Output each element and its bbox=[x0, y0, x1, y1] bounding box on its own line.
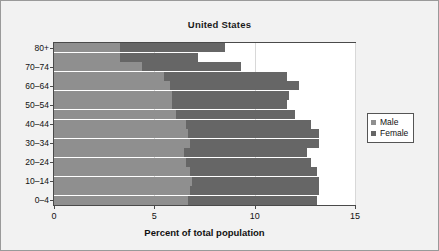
bar-row[interactable] bbox=[54, 43, 355, 52]
bar-segment-male[interactable] bbox=[54, 62, 142, 71]
bar-segment-female[interactable] bbox=[188, 129, 318, 138]
bar-segment-female[interactable] bbox=[190, 167, 316, 176]
bar-row[interactable] bbox=[54, 196, 355, 205]
bar-segment-male[interactable] bbox=[54, 72, 164, 81]
bar-row[interactable] bbox=[54, 81, 355, 90]
bar-segment-male[interactable] bbox=[54, 158, 186, 167]
chart-legend: MaleFemale bbox=[367, 113, 414, 143]
bar-segment-female[interactable] bbox=[164, 72, 286, 81]
x-tick-mark bbox=[54, 205, 55, 209]
bar-segment-female[interactable] bbox=[176, 110, 294, 119]
bar-row[interactable] bbox=[54, 120, 355, 129]
x-tick-label: 0 bbox=[51, 211, 56, 221]
bar-segment-male[interactable] bbox=[54, 177, 192, 186]
x-tick-label: 15 bbox=[350, 211, 360, 221]
bar-segment-female[interactable] bbox=[172, 100, 286, 109]
bar-segment-male[interactable] bbox=[54, 196, 188, 205]
bar-row[interactable] bbox=[54, 177, 355, 186]
bar-row[interactable] bbox=[54, 186, 355, 195]
bar-row[interactable] bbox=[54, 72, 355, 81]
bar-segment-male[interactable] bbox=[54, 81, 170, 90]
y-tick-label: 80+ bbox=[3, 43, 49, 53]
y-tick-label: 70–74 bbox=[3, 62, 49, 72]
bar-row[interactable] bbox=[54, 100, 355, 109]
bar-row[interactable] bbox=[54, 62, 355, 71]
y-tick-label: 0–4 bbox=[3, 195, 49, 205]
x-tick-mark bbox=[255, 205, 256, 209]
bar-segment-female[interactable] bbox=[190, 139, 318, 148]
bar-segment-female[interactable] bbox=[190, 186, 318, 195]
bar-segment-male[interactable] bbox=[54, 120, 186, 129]
bar-row[interactable] bbox=[54, 148, 355, 157]
chart-figure: United States 0–410–1420–2430–3440–4450–… bbox=[0, 0, 439, 251]
legend-swatch-icon bbox=[371, 120, 376, 125]
bar-row[interactable] bbox=[54, 139, 355, 148]
x-tick-label: 10 bbox=[250, 211, 260, 221]
x-tick-label: 5 bbox=[152, 211, 157, 221]
bar-row[interactable] bbox=[54, 129, 355, 138]
bar-segment-male[interactable] bbox=[54, 91, 172, 100]
bar-segment-female[interactable] bbox=[192, 177, 318, 186]
legend-item[interactable]: Female bbox=[371, 128, 408, 139]
bar-segment-female[interactable] bbox=[186, 120, 310, 129]
y-tick-label: 60–64 bbox=[3, 81, 49, 91]
plot-area bbox=[54, 43, 355, 205]
bar-row[interactable] bbox=[54, 53, 355, 62]
legend-label: Female bbox=[380, 128, 408, 139]
bar-segment-male[interactable] bbox=[54, 100, 172, 109]
x-axis-title: Percent of total population bbox=[53, 227, 356, 238]
bar-segment-male[interactable] bbox=[54, 148, 184, 157]
legend-swatch-icon bbox=[371, 131, 376, 136]
y-tick-label: 20–24 bbox=[3, 157, 49, 167]
y-axis: 0–410–1420–2430–3440–4450–5460–6470–7480… bbox=[1, 42, 49, 206]
bar-segment-female[interactable] bbox=[186, 158, 310, 167]
plot-frame bbox=[53, 42, 356, 206]
bar-segment-male[interactable] bbox=[54, 139, 190, 148]
legend-item[interactable]: Male bbox=[371, 117, 408, 128]
bar-segment-male[interactable] bbox=[54, 167, 190, 176]
x-tick-mark bbox=[355, 205, 356, 209]
bar-segment-male[interactable] bbox=[54, 110, 176, 119]
bar-row[interactable] bbox=[54, 91, 355, 100]
bar-segment-male[interactable] bbox=[54, 53, 120, 62]
gridline bbox=[355, 43, 356, 205]
bar-segment-female[interactable] bbox=[170, 81, 298, 90]
bar-row[interactable] bbox=[54, 158, 355, 167]
bar-row[interactable] bbox=[54, 167, 355, 176]
bar-segment-female[interactable] bbox=[172, 91, 288, 100]
y-tick-label: 30–34 bbox=[3, 138, 49, 148]
bar-segment-male[interactable] bbox=[54, 186, 190, 195]
legend-label: Male bbox=[380, 117, 398, 128]
y-tick-label: 10–14 bbox=[3, 176, 49, 186]
bar-row[interactable] bbox=[54, 110, 355, 119]
chart-title: United States bbox=[1, 19, 438, 30]
bar-segment-female[interactable] bbox=[184, 148, 306, 157]
bar-segment-female[interactable] bbox=[120, 43, 224, 52]
y-tick-label: 50–54 bbox=[3, 100, 49, 110]
bar-segment-female[interactable] bbox=[188, 196, 316, 205]
bar-segment-female[interactable] bbox=[120, 53, 198, 62]
bar-segment-male[interactable] bbox=[54, 43, 120, 52]
y-tick-label: 40–44 bbox=[3, 119, 49, 129]
bar-segment-male[interactable] bbox=[54, 129, 188, 138]
bar-segment-female[interactable] bbox=[142, 62, 240, 71]
x-tick-mark bbox=[154, 205, 155, 209]
